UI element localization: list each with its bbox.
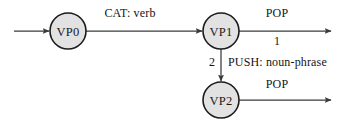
node-vp1-label: VP1 [210, 25, 233, 39]
edge-label-push-noun-phrase: PUSH: noun-phrase [228, 55, 327, 69]
edge-label-vp2-pop: POP [266, 77, 289, 91]
edge-label-vp1-pop: POP [266, 6, 289, 20]
diagram-canvas: VP0 VP1 VP2 CAT: verb POP 1 2 PUSH: noun… [0, 0, 344, 125]
edge-label-cat-verb: CAT: verb [104, 6, 155, 20]
node-vp2-label: VP2 [210, 94, 233, 108]
edge-sublabel-vp1-pop-order: 1 [274, 34, 280, 48]
node-vp0[interactable]: VP0 [50, 13, 86, 49]
edge-sublabel-push-order: 2 [209, 55, 215, 69]
transition-network-diagram: VP0 VP1 VP2 CAT: verb POP 1 2 PUSH: noun… [0, 0, 344, 125]
node-vp0-label: VP0 [57, 25, 80, 39]
node-vp2[interactable]: VP2 [203, 82, 239, 118]
node-vp1[interactable]: VP1 [203, 13, 239, 49]
